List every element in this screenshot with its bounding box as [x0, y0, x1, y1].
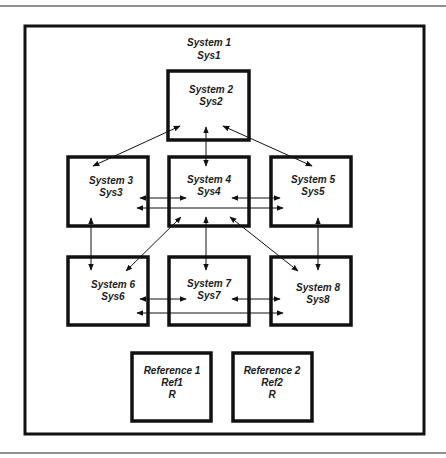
reference-code: R [168, 389, 176, 400]
node-sys8: System 8 Sys8 [271, 257, 351, 325]
node-title: System 7 [187, 278, 231, 289]
node-subtitle: Sys2 [199, 96, 223, 107]
node-title: System 4 [187, 174, 231, 185]
node-subtitle: Sys6 [101, 291, 125, 302]
node-subtitle: Sys3 [99, 187, 123, 198]
reference-ref2: Reference 2 Ref2 R [233, 353, 312, 421]
node-sys7: System 7 Sys7 [169, 257, 249, 325]
reference-title: Reference 2 [244, 365, 301, 376]
node-subtitle: Sys5 [301, 186, 325, 197]
reference-code: R [268, 389, 276, 400]
node-title: System 5 [291, 174, 335, 185]
container-title: System 1 [187, 37, 231, 48]
node-sys5: System 5 Sys5 [271, 157, 351, 226]
node-title: System 8 [296, 282, 340, 293]
reference-subtitle: Ref2 [261, 377, 283, 388]
reference-title: Reference 1 [144, 365, 201, 376]
node-title: System 3 [89, 175, 133, 186]
node-sys2: System 2 Sys2 [168, 71, 249, 140]
reference-subtitle: Ref1 [161, 377, 183, 388]
container-subtitle: Sys1 [197, 50, 221, 61]
node-subtitle: Sys4 [197, 186, 221, 197]
node-subtitle: Sys8 [306, 294, 330, 305]
node-title: System 2 [189, 84, 233, 95]
node-sys3: System 3 Sys3 [68, 157, 148, 226]
node-title: System 6 [91, 279, 135, 290]
node-subtitle: Sys7 [197, 290, 221, 301]
node-sys6: System 6 Sys6 [68, 257, 148, 325]
reference-ref1: Reference 1 Ref1 R [132, 353, 211, 421]
system-diagram: System 1 Sys1 System 2 Sys2 System 3 Sys… [0, 0, 446, 458]
node-sys4: System 4 Sys4 [169, 157, 249, 226]
